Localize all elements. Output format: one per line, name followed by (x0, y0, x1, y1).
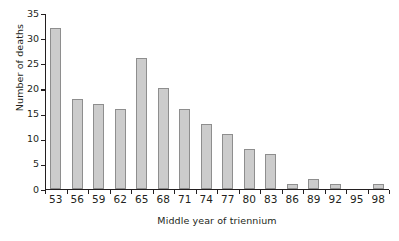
x-tick-label: 83 (260, 193, 282, 206)
x-tick-label: 71 (174, 193, 196, 206)
bar (244, 149, 255, 189)
x-tick-label: 98 (368, 193, 390, 206)
y-tick-mark (41, 165, 45, 166)
x-tick-label: 89 (303, 193, 325, 206)
bar (93, 104, 104, 189)
bar (308, 179, 319, 189)
y-tick-mark (41, 39, 45, 40)
x-tick-label: 86 (282, 193, 304, 206)
x-tick-label: 53 (45, 193, 67, 206)
x-tick-label: 65 (131, 193, 153, 206)
y-tick-mark (41, 64, 45, 65)
y-axis-line (45, 14, 46, 190)
y-tick-mark (41, 140, 45, 141)
y-tick-label: 25 (27, 58, 39, 70)
bar (373, 184, 384, 189)
y-tick-label: 5 (33, 158, 39, 170)
y-tick-label: 10 (27, 133, 39, 145)
x-tick-label: 59 (88, 193, 110, 206)
bar (158, 88, 169, 189)
bar (330, 184, 341, 189)
y-tick-label: 0 (33, 184, 39, 196)
x-tick-label: 62 (110, 193, 132, 206)
x-tick-label: 80 (239, 193, 261, 206)
x-tick-label: 77 (217, 193, 239, 206)
bar (136, 58, 147, 189)
bar-chart: Number of deaths 05101520253035 53565962… (0, 0, 399, 241)
bar (115, 109, 126, 189)
bar (179, 109, 190, 189)
bar (72, 99, 83, 190)
y-tick-label: 35 (27, 8, 39, 20)
x-tick-mark (389, 190, 390, 194)
bar (222, 134, 233, 189)
bar (265, 154, 276, 189)
y-tick-mark (41, 14, 45, 15)
y-axis-title: Number of deaths (14, 0, 25, 143)
x-tick-label: 56 (67, 193, 89, 206)
y-tick-label: 30 (27, 33, 39, 45)
y-tick-label: 15 (27, 108, 39, 120)
plot-area: 05101520253035 (45, 14, 389, 190)
bar (287, 184, 298, 189)
x-tick-label: 74 (196, 193, 218, 206)
y-tick-mark (41, 89, 45, 90)
x-tick-label: 95 (346, 193, 368, 206)
bar (50, 28, 61, 189)
x-tick-label: 92 (325, 193, 347, 206)
bar (201, 124, 212, 189)
y-tick-mark (41, 115, 45, 116)
x-axis-title: Middle year of triennium (45, 215, 389, 226)
x-tick-label: 68 (153, 193, 175, 206)
y-tick-label: 20 (27, 83, 39, 95)
